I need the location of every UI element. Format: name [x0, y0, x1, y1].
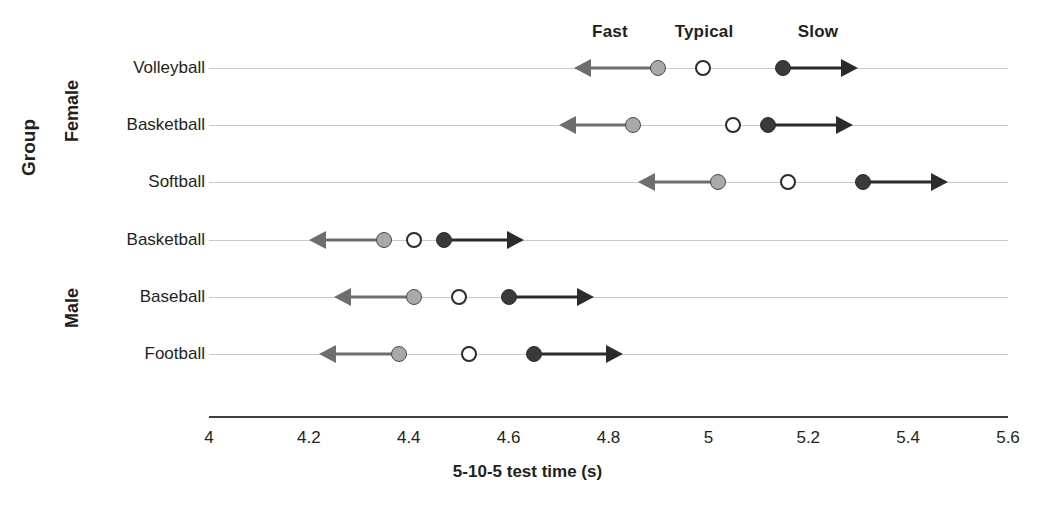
fast-segment [323, 239, 384, 242]
fast-arrowhead-icon [559, 116, 576, 134]
fast-segment [652, 181, 718, 184]
x-tick-label: 4.4 [397, 428, 421, 448]
fast-arrowhead-icon [638, 173, 655, 191]
fast-marker [376, 232, 392, 248]
fast-marker [710, 174, 726, 190]
x-tick-label: 5.2 [796, 428, 820, 448]
slow-segment [768, 124, 839, 127]
fast-segment [333, 353, 399, 356]
fast-segment [588, 67, 659, 70]
slow-marker [436, 232, 452, 248]
slow-marker [501, 289, 517, 305]
typical-marker [725, 117, 741, 133]
slow-segment [509, 296, 580, 299]
slow-marker [760, 117, 776, 133]
x-axis-title: 5-10-5 test time (s) [0, 462, 1055, 482]
slow-segment [444, 239, 510, 242]
typical-marker [461, 346, 477, 362]
typical-marker [695, 60, 711, 76]
x-tick-label: 4.8 [597, 428, 621, 448]
fast-marker [650, 60, 666, 76]
x-axis-line [209, 416, 1008, 418]
typical-marker [780, 174, 796, 190]
fast-arrowhead-icon [334, 288, 351, 306]
fast-segment [348, 296, 414, 299]
chart-root: FastTypicalSlow Group FemaleMale Volleyb… [0, 0, 1055, 509]
slow-segment [863, 181, 934, 184]
x-tick-label: 5 [704, 428, 713, 448]
slow-arrowhead-icon [606, 345, 623, 363]
slow-marker [775, 60, 791, 76]
slow-segment [783, 67, 844, 70]
x-tick-label: 5.6 [996, 428, 1020, 448]
fast-marker [391, 346, 407, 362]
slow-arrowhead-icon [841, 59, 858, 77]
slow-arrowhead-icon [836, 116, 853, 134]
slow-marker [526, 346, 542, 362]
x-tick-label: 4.2 [297, 428, 321, 448]
x-tick-label: 4 [204, 428, 213, 448]
fast-segment [573, 124, 634, 127]
fast-marker [625, 117, 641, 133]
slow-marker [855, 174, 871, 190]
fast-arrowhead-icon [574, 59, 591, 77]
slow-arrowhead-icon [931, 173, 948, 191]
fast-arrowhead-icon [309, 231, 326, 249]
slow-segment [534, 353, 610, 356]
fast-marker [406, 289, 422, 305]
gridline [209, 297, 1008, 298]
typical-marker [406, 232, 422, 248]
x-tick-label: 5.4 [896, 428, 920, 448]
fast-arrowhead-icon [319, 345, 336, 363]
x-tick-label: 4.6 [497, 428, 521, 448]
typical-marker [451, 289, 467, 305]
slow-arrowhead-icon [507, 231, 524, 249]
slow-arrowhead-icon [577, 288, 594, 306]
